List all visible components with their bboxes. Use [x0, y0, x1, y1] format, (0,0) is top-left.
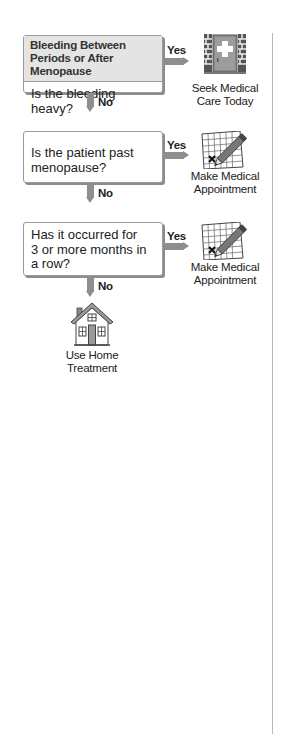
yes-label-1: Yes: [167, 44, 186, 56]
flowchart-title: Bleeding Between Periods or After Menopa…: [24, 36, 162, 82]
outcome-make-appointment-2: Make Medical Appointment: [185, 261, 265, 286]
house-icon: [70, 302, 114, 346]
outcome-line: Make Medical: [185, 261, 265, 274]
question-line: 3 or more months in: [31, 243, 156, 258]
no-label-1: No: [98, 96, 113, 108]
calendar-pencil-icon: [200, 222, 254, 260]
yes-arrow-1: [164, 58, 184, 65]
question-text-3: Has it occurred for 3 or more months in …: [24, 223, 162, 278]
question-line: Is the patient past: [31, 146, 156, 161]
question-line: Has it occurred for: [31, 228, 156, 243]
outcome-seek-care-today: Seek Medical Care Today: [185, 82, 265, 107]
outcome-make-appointment-1: Make Medical Appointment: [185, 170, 265, 195]
yes-label-3: Yes: [167, 230, 186, 242]
outcome-line: Seek Medical: [185, 82, 265, 95]
question-box-3: Has it occurred for 3 or more months in …: [23, 222, 163, 276]
no-arrow-1: [87, 93, 94, 107]
page-divider-line: [272, 33, 273, 734]
outcome-line: Appointment: [185, 274, 265, 287]
outcome-line: Appointment: [185, 183, 265, 196]
no-label-3: No: [98, 280, 113, 292]
outcome-home-treatment: Use Home Treatment: [52, 349, 132, 374]
outcome-line: Treatment: [52, 362, 132, 375]
question-text-2: Is the patient past menopause?: [24, 132, 162, 181]
yes-arrow-3: [163, 243, 184, 250]
yes-arrow-2: [163, 152, 184, 159]
no-label-2: No: [98, 187, 113, 199]
no-arrow-3: [87, 277, 94, 292]
hospital-door-icon: [204, 34, 246, 76]
outcome-line: Use Home: [52, 349, 132, 362]
question-line: menopause?: [31, 161, 156, 176]
question-box-1: Bleeding Between Periods or After Menopa…: [23, 35, 163, 93]
question-line: a row?: [31, 257, 156, 272]
calendar-pencil-icon: [200, 131, 254, 169]
yes-label-2: Yes: [167, 139, 186, 151]
question-box-2: Is the patient past menopause?: [23, 131, 163, 183]
outcome-line: Care Today: [185, 95, 265, 108]
outcome-line: Make Medical: [185, 170, 265, 183]
no-arrow-2: [87, 184, 94, 198]
